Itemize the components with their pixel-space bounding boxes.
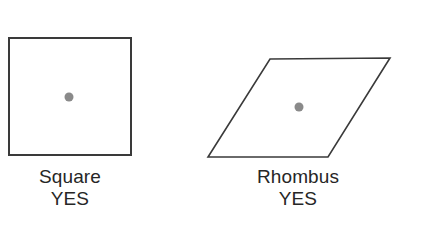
- square-center-dot: [65, 93, 74, 102]
- square-shape-name: Square: [0, 166, 140, 188]
- square-label-block: Square YES: [0, 166, 140, 211]
- rhombus-answer: YES: [228, 188, 368, 210]
- shapes-figure: Square YES Rhombus YES: [0, 0, 427, 228]
- rhombus-label-block: Rhombus YES: [228, 166, 368, 211]
- square-answer: YES: [0, 188, 140, 210]
- square-outline: [9, 38, 131, 155]
- rhombus-shape-name: Rhombus: [228, 166, 368, 188]
- rhombus-center-dot: [295, 103, 304, 112]
- rhombus-outline: [208, 58, 390, 157]
